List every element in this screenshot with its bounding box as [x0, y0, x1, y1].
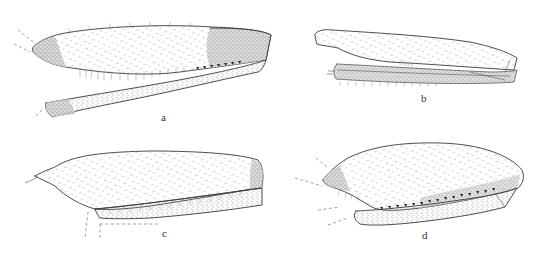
panel-label-d: d	[422, 230, 428, 241]
panel-c-drawing	[25, 151, 263, 238]
panel-label-a: a	[161, 112, 166, 123]
illustration-canvas	[0, 0, 542, 257]
panel-label-c: c	[162, 228, 167, 239]
panel-a-drawing	[14, 22, 271, 117]
figure-plate: a b c d	[0, 0, 542, 257]
panel-b-drawing	[315, 30, 517, 86]
panel-d-drawing	[295, 143, 523, 225]
panel-label-b: b	[421, 93, 427, 104]
